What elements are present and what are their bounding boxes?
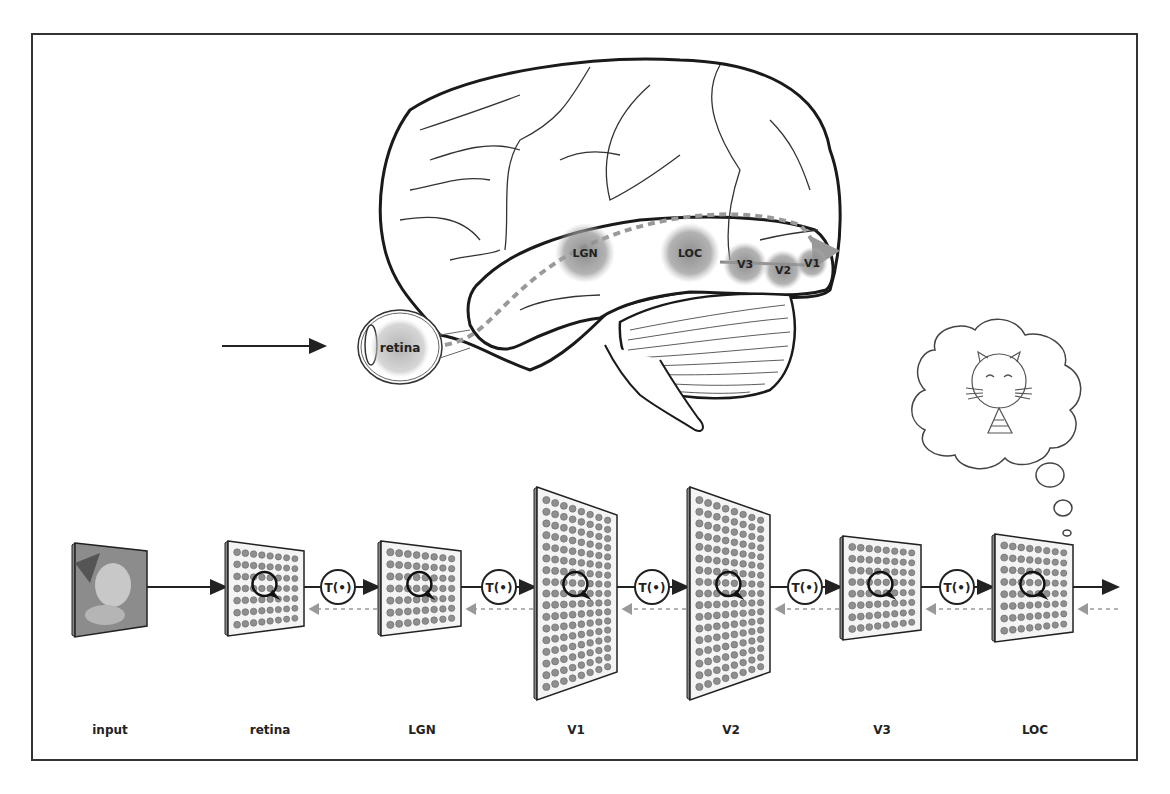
layer-loc (992, 534, 1073, 642)
transform-label: T(•) (486, 581, 513, 595)
brain-illustration: retinaLGNLOCV3V2V1 T(•)T(•)T(•)T(•)T(•) (0, 0, 1170, 794)
transform-label: T(•) (944, 581, 971, 595)
region-v1: V1 (796, 247, 828, 279)
layer-input (72, 543, 147, 637)
stage-label-retina: retina (250, 723, 291, 737)
layer-retina (225, 541, 304, 636)
stage-label-v2: V2 (722, 723, 740, 737)
layer-v1 (534, 487, 617, 700)
stage-label-v1: V1 (567, 723, 585, 737)
transform-label: T(•) (792, 581, 819, 595)
stage-label-loc: LOC (1022, 723, 1048, 737)
figure-stage: retinaLGNLOCV3V2V1 T(•)T(•)T(•)T(•)T(•) … (0, 0, 1170, 794)
transform-label: T(•) (325, 581, 352, 595)
transform-node: T(•) (940, 570, 974, 604)
region-v3: V3 (723, 242, 767, 286)
cnn-pipeline: T(•)T(•)T(•)T(•)T(•) (72, 487, 1118, 700)
region-loc: LOC (660, 223, 720, 283)
layer-lgn (378, 541, 461, 636)
stage-label-v3: V3 (873, 723, 891, 737)
region-label: V2 (775, 264, 791, 277)
transform-node: T(•) (788, 570, 822, 604)
transform-node: T(•) (635, 570, 669, 604)
region-label: LGN (572, 247, 597, 260)
region-label: retina (380, 341, 421, 355)
transform-node: T(•) (482, 570, 516, 604)
layer-v3 (840, 536, 921, 640)
region-label: LOC (678, 247, 702, 260)
transform-node: T(•) (321, 570, 355, 604)
transform-label: T(•) (639, 581, 666, 595)
stage-label-lgn: LGN (408, 723, 436, 737)
stage-label-input: input (92, 723, 128, 737)
region-v2: V2 (763, 250, 803, 290)
region-label: V3 (737, 258, 753, 271)
layer-v2 (687, 487, 770, 700)
region-lgn: LGN (555, 223, 615, 283)
region-retina: retina (370, 318, 430, 378)
thought-bubble (912, 319, 1081, 536)
region-label: V1 (804, 257, 820, 270)
